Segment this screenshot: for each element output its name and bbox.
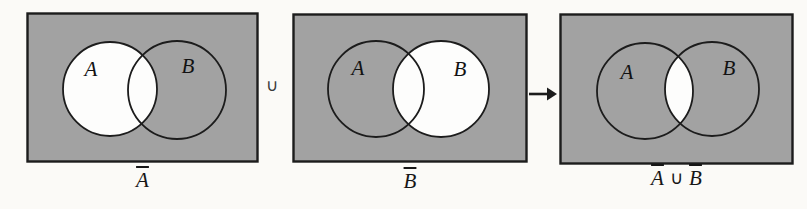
caption-complement-b: B — [292, 169, 528, 193]
venn-diagram-complement-b: A B — [292, 13, 528, 163]
caption-a-bar: A — [650, 166, 665, 190]
set-a-label: A — [83, 57, 98, 81]
set-b-label: B — [454, 57, 467, 81]
caption-b-bar: B — [403, 169, 418, 193]
arrow-right-icon — [528, 85, 558, 103]
set-b-label: B — [182, 54, 195, 78]
caption-complement-a: A — [26, 168, 259, 192]
set-b-circle — [393, 41, 489, 137]
set-a-circle — [63, 42, 157, 136]
venn-identity-figure: A B ∪ A B A B A B A∪B — [0, 0, 807, 209]
caption-union-of-complements: A∪B — [559, 166, 794, 190]
venn-diagram-union-of-complements: A B — [559, 13, 794, 165]
set-b-label: B — [723, 56, 736, 80]
set-a-label: A — [350, 56, 365, 80]
arrow-head — [547, 88, 557, 101]
caption-b-bar: B — [688, 166, 703, 190]
union-operator: ∪ — [266, 75, 278, 95]
caption-union-operator: ∪ — [665, 167, 688, 188]
caption-a-bar: A — [135, 168, 150, 192]
venn-diagram-complement-a: A B — [26, 12, 259, 163]
set-a-label: A — [619, 60, 634, 84]
